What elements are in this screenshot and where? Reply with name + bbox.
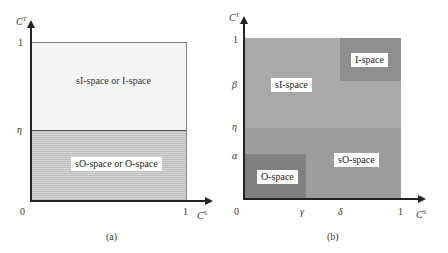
panel-a-y-axis-label: CT [16,14,26,27]
panel-b-x-tick-gamma: γ [300,207,304,217]
panel-b-y-tick-beta: β [232,80,237,90]
panel-b-y-axis-label: CT [229,10,239,23]
panel-a-y-arrow-icon [27,20,35,28]
panel-a-x-axis [30,200,206,202]
panel-b-x-axis [243,198,419,200]
panel-a-x-axis-label: CS [197,208,207,221]
panel-b-I-label: I-space [351,53,388,67]
panel-b-x-axis-sup: S [423,209,426,215]
panel-a-x-axis-sup: S [204,210,207,216]
panel-a-upper-region [32,42,187,131]
panel-a-x-axis-letter: C [197,210,204,221]
panel-b-y-axis-letter: C [229,12,236,23]
panel-a-origin: 0 [20,207,25,217]
panel-b-O-label: O-space [257,170,298,184]
panel-a-y-tick-1: 1 [18,38,23,48]
panel-b-y-tick-1: 1 [233,35,238,45]
panel-b-y-arrow-icon [240,16,248,24]
panel-a-x-tick-1: 1 [183,207,188,217]
panel-b-x-axis-letter: C [416,209,423,220]
panel-a-caption: (a) [106,232,117,242]
panel-b-x-axis-label: CS [416,207,426,220]
panel-b-y-axis [243,22,245,200]
panel-b-sI-label: sI-space [271,78,312,92]
panel-b-caption: (b) [327,232,339,242]
panel-a-y-tick-eta: η [17,125,22,135]
panel-b-x-tick-delta: δ [338,207,343,217]
panel-a-y-axis-sup: T [23,16,27,22]
panel-b-y-axis-sup: T [236,12,240,18]
panel-b-origin: 0 [234,207,239,217]
panel-a-x-arrow-icon [205,197,213,205]
panel-a-y-axis-letter: C [16,16,23,27]
panel-b-sO-label: sO-space [334,153,379,167]
panel-b-y-tick-alpha: α [232,151,237,161]
panel-b-x-tick-1: 1 [398,207,403,217]
panel-b-x-arrow-icon [418,195,426,203]
panel-b-y-tick-eta: η [232,122,237,132]
panel-a-lower-label: sO-space or O-space [71,157,162,171]
panel-a-y-axis [30,26,32,202]
panel-a-upper-label: sI-space or I-space [76,76,151,86]
